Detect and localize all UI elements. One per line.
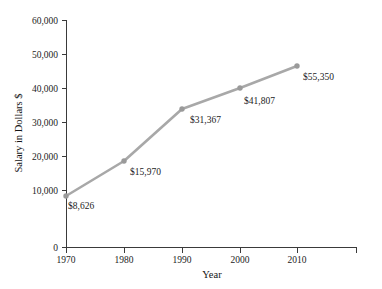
data-label-2010: $55,350: [303, 72, 334, 82]
data-label-2000: $41,807: [244, 96, 275, 106]
salary-series-line: [66, 66, 297, 196]
y-tick-label-30000: 30,000: [32, 118, 58, 128]
x-tick-label-2000: 2000: [231, 255, 250, 265]
data-label-1990: $31,367: [190, 115, 221, 125]
x-axis-title: Year: [202, 269, 222, 280]
data-point-2000: [237, 85, 242, 90]
salary-line-chart: 60,000 50,000 40,000 30,000 20,000 10,00…: [0, 0, 382, 289]
data-point-1980: [121, 158, 126, 163]
x-tick-label-1980: 1980: [115, 255, 134, 265]
data-point-1990: [179, 106, 184, 111]
data-point-1970: [63, 193, 68, 198]
x-tick-label-1990: 1990: [173, 255, 192, 265]
y-tick-label-10000: 10,000: [32, 186, 58, 196]
chart-page: 60,000 50,000 40,000 30,000 20,000 10,00…: [0, 0, 382, 289]
y-tick-label-40000: 40,000: [32, 84, 58, 94]
x-tick-label-1970: 1970: [57, 255, 76, 265]
data-label-1970: $8,626: [68, 201, 94, 211]
x-tick-label-2010: 2010: [288, 255, 307, 265]
data-label-1980: $15,970: [130, 167, 161, 177]
y-tick-label-60000: 60,000: [32, 16, 58, 26]
y-tick-label-20000: 20,000: [32, 152, 58, 162]
data-point-2010: [294, 63, 299, 68]
y-axis-title: Salary in Dollars $: [13, 93, 24, 172]
y-tick-label-50000: 50,000: [32, 50, 58, 60]
y-tick-label-0: 0: [53, 243, 58, 253]
